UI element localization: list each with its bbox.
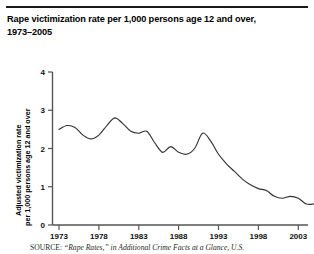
top-divider-rule bbox=[6, 6, 308, 8]
data-series-line bbox=[59, 118, 314, 205]
plot-area: Adjusted victimization rate per 1,000 pe… bbox=[0, 48, 314, 240]
x-axis: 1973 1978 1983 1988 1993 1998 2003 bbox=[50, 225, 308, 240]
x-tick-label-1993: 1993 bbox=[210, 232, 228, 240]
x-tick-label-1988: 1988 bbox=[170, 232, 188, 240]
source-label: SOURCE: bbox=[30, 243, 62, 252]
x-tick-group bbox=[59, 225, 298, 230]
source-note: SOURCE: “Rape Rates,” in Additional Crim… bbox=[30, 243, 310, 252]
x-tick-label-1983: 1983 bbox=[130, 232, 148, 240]
x-tick-label-1978: 1978 bbox=[90, 232, 108, 240]
y-tick-label-2: 2 bbox=[41, 145, 46, 154]
chart-title-line2: 1973–2005 bbox=[7, 27, 52, 37]
chart-title-line1: Rape victimization rate per 1,000 person… bbox=[7, 14, 256, 24]
y-axis-label-line1: Adjusted victimization rate bbox=[14, 125, 23, 216]
y-tick-label-0: 0 bbox=[41, 221, 46, 230]
y-tick-label-4: 4 bbox=[41, 68, 46, 77]
y-tick-label-1: 1 bbox=[41, 183, 46, 192]
source-text: “Rape Rates,” in Additional Crime Facts … bbox=[64, 243, 244, 252]
y-axis-label-line2: per 1,000 persons age 12 and over bbox=[23, 108, 32, 226]
y-axis-label: Adjusted victimization rate per 1,000 pe… bbox=[14, 108, 32, 226]
x-tick-label-2003: 2003 bbox=[289, 232, 307, 240]
figure-rape-victimization-rate: Rape victimization rate per 1,000 person… bbox=[0, 0, 314, 254]
chart-title: Rape victimization rate per 1,000 person… bbox=[7, 13, 305, 38]
y-axis: 4 3 2 1 0 bbox=[41, 68, 53, 230]
y-tick-label-3: 3 bbox=[41, 106, 46, 115]
x-tick-label-1998: 1998 bbox=[250, 232, 268, 240]
x-tick-label-1973: 1973 bbox=[50, 232, 68, 240]
